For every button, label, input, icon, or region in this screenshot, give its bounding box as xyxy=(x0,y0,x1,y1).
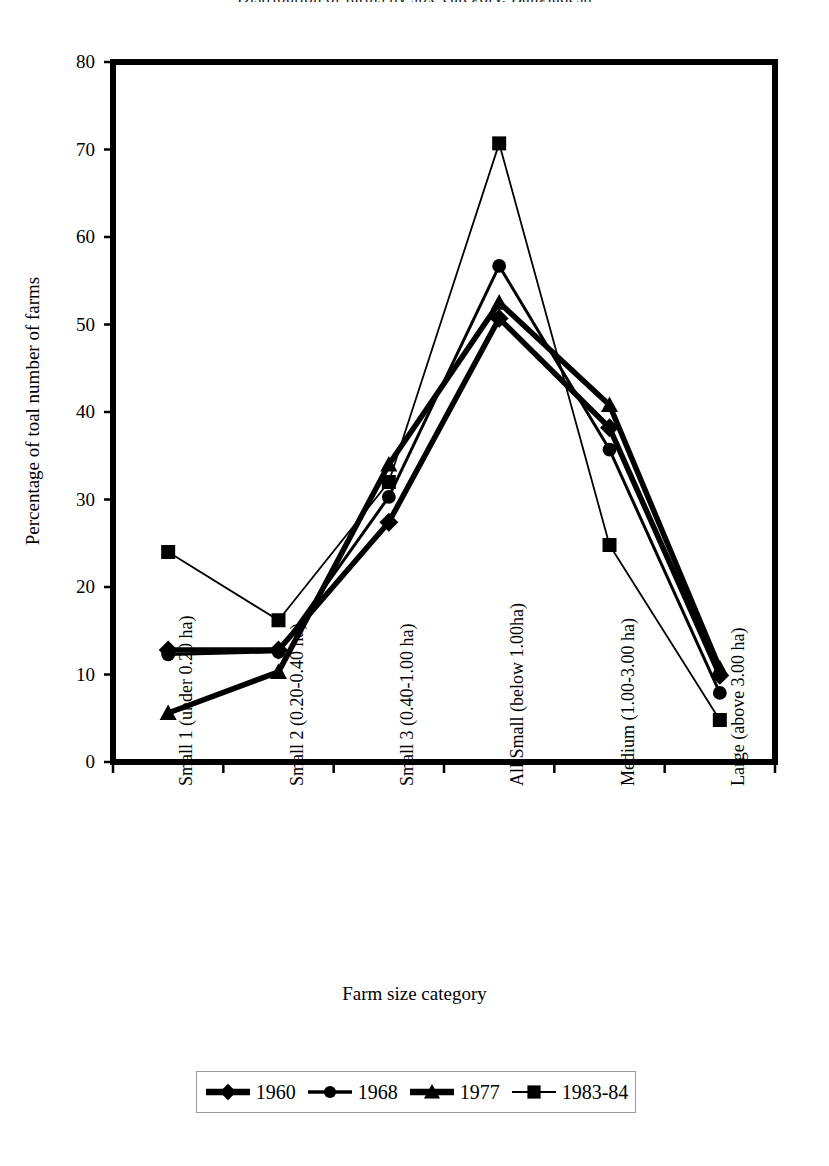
plot-frame xyxy=(113,62,775,762)
marker-circle xyxy=(161,647,175,661)
data-point-1968-5 xyxy=(713,686,727,700)
data-series-group xyxy=(159,136,730,727)
data-point-1983-84-4 xyxy=(603,538,617,552)
data-point-1968-1 xyxy=(272,645,286,659)
legend-entry-1968[interactable]: 1968 xyxy=(306,1082,398,1102)
data-point-1968-3 xyxy=(492,259,506,273)
legend-label: 1968 xyxy=(358,1082,398,1102)
marker-circle xyxy=(272,645,286,659)
axis-ticks xyxy=(104,62,775,773)
data-point-1968-2 xyxy=(382,490,396,504)
marker-triangle xyxy=(491,294,508,310)
marker-square xyxy=(382,475,396,489)
series-1960 xyxy=(159,309,730,685)
data-point-1977-3 xyxy=(491,294,508,310)
marker-circle xyxy=(382,490,396,504)
marker-square xyxy=(527,1085,540,1098)
legend-marker-diamond xyxy=(219,1084,236,1101)
legend-marker-square xyxy=(527,1085,540,1098)
x-category-label: Small 1 (under 0.20 ha) xyxy=(177,616,195,786)
chart-figure: Distribution of farms by size category, … xyxy=(0,0,829,1166)
legend-entry-1977[interactable]: 1977 xyxy=(408,1082,500,1102)
marker-square xyxy=(161,545,175,559)
legend-label: 1960 xyxy=(256,1082,296,1102)
legend-swatch-triangle xyxy=(408,1082,456,1102)
series-1983-84 xyxy=(161,136,727,727)
data-point-1983-84-0 xyxy=(161,545,175,559)
legend-swatch-circle xyxy=(306,1082,354,1102)
legend-entry-1983-84[interactable]: 1983-84 xyxy=(510,1082,629,1102)
data-point-1983-84-1 xyxy=(272,613,286,627)
marker-square xyxy=(272,613,286,627)
data-point-1968-0 xyxy=(161,647,175,661)
x-category-label: Small 3 (0.40-1.00 ha) xyxy=(398,624,416,786)
x-category-label: All Small (below 1.00ha) xyxy=(508,603,526,786)
marker-diamond xyxy=(219,1084,236,1101)
legend-marker-circle xyxy=(324,1086,336,1098)
legend-entry-1960[interactable]: 1960 xyxy=(204,1082,296,1102)
legend-label: 1983-84 xyxy=(562,1082,629,1102)
legend-swatch-square xyxy=(510,1082,558,1102)
x-category-label: Medium (1.00-3.00 ha) xyxy=(619,618,637,786)
marker-circle xyxy=(603,443,617,457)
marker-square xyxy=(713,713,727,727)
legend-swatch-diamond xyxy=(204,1082,252,1102)
marker-square xyxy=(492,136,506,150)
legend-label: 1977 xyxy=(460,1082,500,1102)
x-category-label: Large (above 3.00 ha) xyxy=(729,627,747,786)
x-axis-title: Farm size category xyxy=(0,983,829,1005)
data-point-1983-84-3 xyxy=(492,136,506,150)
x-category-label: Small 2 (0.20-0.40 ha) xyxy=(288,624,306,786)
data-point-1968-4 xyxy=(603,443,617,457)
chart-legend: 1960196819771983-84 xyxy=(196,1071,636,1113)
marker-circle xyxy=(324,1086,336,1098)
marker-circle xyxy=(713,686,727,700)
data-point-1983-84-5 xyxy=(713,713,727,727)
data-point-1983-84-2 xyxy=(382,475,396,489)
plot-border xyxy=(113,62,775,762)
marker-circle xyxy=(492,259,506,273)
marker-square xyxy=(603,538,617,552)
